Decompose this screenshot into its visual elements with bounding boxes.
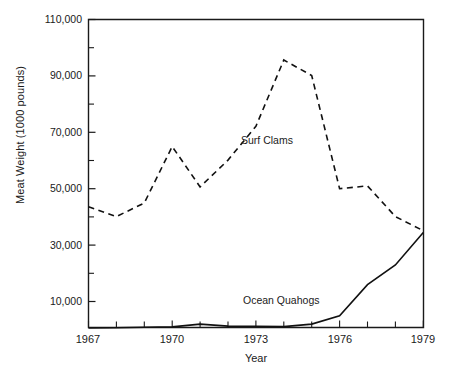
y-axis-minor-ticks bbox=[89, 48, 95, 274]
x-tick-label-1967: 1967 bbox=[63, 333, 113, 345]
y-tick-label-110000: 110,000 bbox=[26, 13, 82, 25]
series-line-ocean-quahogs bbox=[89, 233, 424, 329]
x-tick-label-1976: 1976 bbox=[315, 333, 365, 345]
x-tick-label-1973: 1973 bbox=[231, 333, 281, 345]
series-annotation-surf-clams: Surf Clams bbox=[241, 134, 293, 146]
x-tick-label-1979: 1979 bbox=[398, 333, 448, 345]
x-axis-title: Year bbox=[88, 352, 424, 364]
y-tick-label-90000: 90,000 bbox=[26, 69, 82, 81]
series-annotation-ocean-quahogs: Ocean Quahogs bbox=[243, 294, 319, 306]
y-tick-label-50000: 50,000 bbox=[26, 182, 82, 194]
y-axis-title: Meat Weight (1000 pounds) bbox=[14, 0, 26, 285]
chart-figure: Meat Weight (1000 pounds) Year 110,000 9… bbox=[0, 0, 454, 385]
y-tick-label-30000: 30,000 bbox=[26, 239, 82, 251]
y-tick-label-70000: 70,000 bbox=[26, 126, 82, 138]
x-tick-label-1970: 1970 bbox=[147, 333, 197, 345]
y-tick-label-10000: 10,000 bbox=[26, 295, 82, 307]
